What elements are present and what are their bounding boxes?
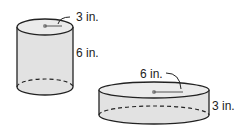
cylinder-a — [17, 17, 73, 95]
cylinder-b-radius-label: 6 in. — [140, 67, 163, 81]
cylinder-a-height-label: 6 in. — [76, 46, 99, 60]
cylinders-diagram: 3 in. 6 in. 6 in. 3 in. — [0, 0, 248, 139]
cylinder-a-radius-label: 3 in. — [76, 10, 99, 24]
cylinder-b-height-label: 3 in. — [212, 99, 235, 113]
